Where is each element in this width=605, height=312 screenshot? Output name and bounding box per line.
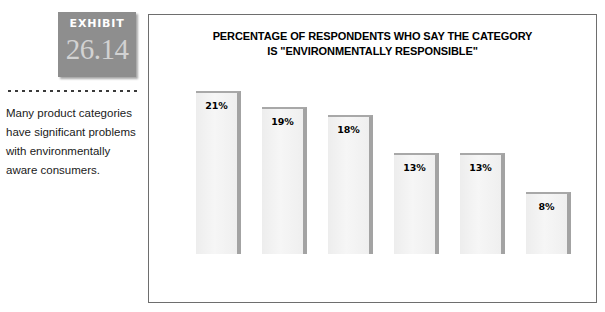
bar[interactable]: 13% bbox=[460, 153, 505, 254]
bar-value-label: 18% bbox=[328, 124, 369, 135]
exhibit-caption: Many product categories have significant… bbox=[6, 104, 142, 180]
exhibit-badge: EXHIBIT 26.14 bbox=[58, 12, 136, 77]
bar-value-label: 13% bbox=[394, 162, 435, 173]
exhibit-sidebar: EXHIBIT 26.14 Many product categories ha… bbox=[0, 0, 148, 312]
bar-series: 21%19%18%13%13%8% bbox=[175, 75, 576, 254]
exhibit-number: 26.14 bbox=[66, 33, 129, 65]
bar-value-label: 21% bbox=[196, 100, 237, 111]
bar-slot: 8% bbox=[515, 11, 581, 254]
exhibit-label: EXHIBIT bbox=[70, 17, 125, 31]
dotted-divider bbox=[6, 89, 138, 93]
bar[interactable]: 13% bbox=[394, 153, 439, 254]
bar-slot: 13% bbox=[383, 11, 449, 254]
bar[interactable]: 8% bbox=[526, 192, 571, 254]
bar-value-label: 8% bbox=[526, 201, 567, 212]
bar-slot: 21% bbox=[185, 11, 251, 254]
bar[interactable]: 21% bbox=[196, 91, 241, 254]
bar-slot: 19% bbox=[251, 11, 317, 254]
bar-slot: 13% bbox=[449, 11, 515, 254]
bar-value-label: 19% bbox=[262, 116, 303, 127]
bar-slot: 18% bbox=[317, 11, 383, 254]
plot-area: 21%19%18%13%13%8% BeveragesLaundryDeterg… bbox=[175, 75, 576, 254]
bar[interactable]: 19% bbox=[262, 107, 307, 254]
bar-value-label: 13% bbox=[460, 162, 501, 173]
bar[interactable]: 18% bbox=[328, 115, 373, 255]
chart-frame: PERCENTAGE OF RESPONDENTS WHO SAY THE CA… bbox=[148, 14, 597, 303]
